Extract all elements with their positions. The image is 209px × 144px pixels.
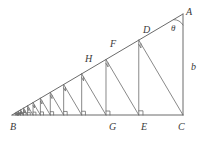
vertex-label-F: F (110, 39, 116, 49)
vertex-label-D: D (143, 25, 150, 35)
cascade-perpendicular-3 (64, 84, 82, 115)
vertex-label-C: C (178, 122, 185, 132)
cascade-perpendicular-2 (82, 74, 106, 115)
cascade-perpendicular-1 (106, 59, 139, 115)
right-angle-base-3 (64, 111, 68, 115)
cascade-perpendicular-0 (139, 40, 183, 115)
right-angle-base-2 (82, 111, 86, 115)
vertex-label-A: A (186, 7, 192, 17)
right-angle-base-1 (106, 111, 110, 115)
right-angle-base-0 (139, 111, 143, 115)
cascade-perpendicular-6 (33, 103, 40, 115)
vertex-label-E: E (141, 122, 147, 132)
vertex-label-G: G (109, 122, 116, 132)
vertex-label-H: H (85, 54, 92, 64)
geometry-figure: A B C D E F G H θ b (0, 0, 209, 144)
side-label-b: b (191, 62, 196, 72)
angle-label-theta: θ (171, 24, 175, 33)
vertex-label-B: B (10, 122, 16, 132)
